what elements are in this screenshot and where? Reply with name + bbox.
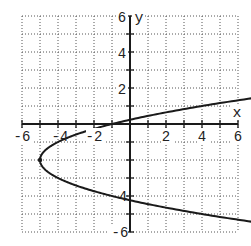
y-tick-label: 4 bbox=[119, 189, 127, 205]
x-tick-label: -4 bbox=[52, 129, 69, 145]
x-axis-label: x bbox=[232, 105, 241, 122]
y-tick-label: 6 bbox=[118, 10, 126, 26]
x-tick-label: -6 bbox=[14, 129, 31, 145]
x-tick-label: 2 bbox=[162, 129, 170, 145]
vertex-point bbox=[38, 158, 42, 162]
x-tick-label: -2 bbox=[86, 129, 103, 145]
y-tick-label: -6 bbox=[112, 225, 129, 241]
parabola-graph: -6 -4 -2 2 4 6 6 4 2 4 -6 y x bbox=[0, 0, 251, 246]
y-tick-label: 2 bbox=[118, 82, 126, 98]
y-axis-label: y bbox=[134, 10, 143, 27]
x-tick-label: 4 bbox=[198, 129, 206, 145]
y-tick-label: 4 bbox=[118, 46, 126, 62]
x-tick-label: 6 bbox=[234, 129, 242, 145]
